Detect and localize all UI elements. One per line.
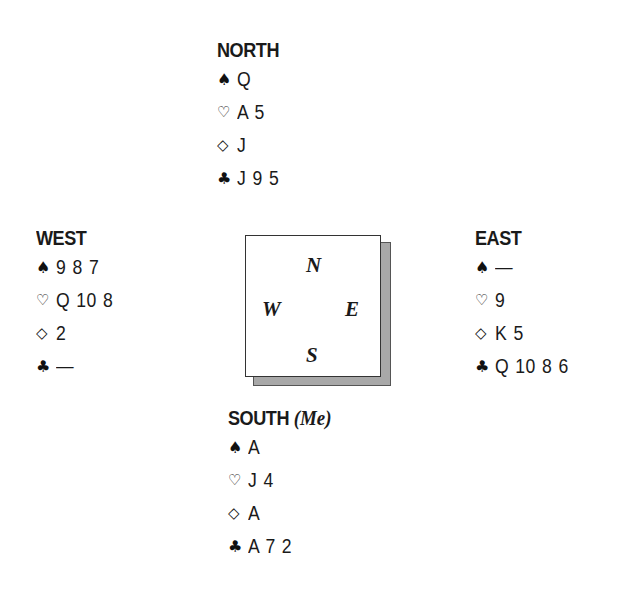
diamond-icon: ◇ xyxy=(217,129,237,162)
north-diamonds-row: ◇ J xyxy=(217,129,289,162)
north-spades-row: ♠ Q xyxy=(217,63,289,96)
heart-icon: ♡ xyxy=(217,96,237,129)
west-diamonds: 2 xyxy=(56,317,66,350)
compass-south: S xyxy=(306,343,318,368)
spade-icon: ♠ xyxy=(228,431,248,464)
heart-icon: ♡ xyxy=(36,284,56,317)
east-title: EAST xyxy=(475,225,564,251)
east-hearts-row: ♡ 9 xyxy=(475,284,579,317)
west-diamonds-row: ◇ 2 xyxy=(36,317,121,350)
spade-icon: ♠ xyxy=(36,251,56,284)
compass-east: E xyxy=(345,297,359,322)
north-spades: Q xyxy=(237,63,251,96)
north-title: NORTH xyxy=(217,37,279,63)
west-spades: 9 8 7 xyxy=(56,251,99,284)
east-hand: EAST ♠ — ♡ 9 ◇ K 5 ♣ Q 10 8 6 xyxy=(475,225,579,383)
west-clubs: — xyxy=(56,350,74,383)
south-hand: SOUTH (Me) ♠ A ♡ J 4 ◇ A ♣ A 7 2 xyxy=(228,405,348,563)
compass-west: W xyxy=(262,297,281,322)
south-hearts: J 4 xyxy=(248,464,274,497)
east-diamonds: K 5 xyxy=(495,317,524,350)
south-hearts-row: ♡ J 4 xyxy=(228,464,348,497)
diamond-icon: ◇ xyxy=(475,317,495,350)
west-hearts: Q 10 8 xyxy=(56,284,113,317)
south-diamonds-row: ◇ A xyxy=(228,497,348,530)
diamond-icon: ◇ xyxy=(228,497,248,530)
west-clubs-row: ♣ — xyxy=(36,350,121,383)
heart-icon: ♡ xyxy=(475,284,495,317)
club-icon: ♣ xyxy=(36,350,56,383)
west-title: WEST xyxy=(36,225,109,251)
heart-icon: ♡ xyxy=(228,464,248,497)
north-clubs: J 9 5 xyxy=(237,162,279,195)
north-diamonds: J xyxy=(237,129,246,162)
east-clubs: Q 10 8 6 xyxy=(495,350,569,383)
west-hearts-row: ♡ Q 10 8 xyxy=(36,284,121,317)
club-icon: ♣ xyxy=(217,162,237,195)
south-title: SOUTH (Me) xyxy=(228,405,331,431)
south-spades-row: ♠ A xyxy=(228,431,348,464)
spade-icon: ♠ xyxy=(217,63,237,96)
compass-north: N xyxy=(306,253,321,278)
north-hearts: A 5 xyxy=(237,96,265,129)
west-spades-row: ♠ 9 8 7 xyxy=(36,251,121,284)
east-spades-row: ♠ — xyxy=(475,251,579,284)
east-hearts: 9 xyxy=(495,284,505,317)
east-spades: — xyxy=(495,251,513,284)
east-clubs-row: ♣ Q 10 8 6 xyxy=(475,350,579,383)
south-title-label: SOUTH xyxy=(228,406,289,429)
south-clubs-row: ♣ A 7 2 xyxy=(228,530,348,563)
west-hand: WEST ♠ 9 8 7 ♡ Q 10 8 ◇ 2 ♣ — xyxy=(36,225,121,383)
south-diamonds: A xyxy=(248,497,260,530)
south-clubs: A 7 2 xyxy=(248,530,292,563)
north-hearts-row: ♡ A 5 xyxy=(217,96,289,129)
south-spades: A xyxy=(248,431,260,464)
club-icon: ♣ xyxy=(228,530,248,563)
south-subtitle: (Me) xyxy=(294,405,332,430)
spade-icon: ♠ xyxy=(475,251,495,284)
club-icon: ♣ xyxy=(475,350,495,383)
east-diamonds-row: ◇ K 5 xyxy=(475,317,579,350)
north-hand: NORTH ♠ Q ♡ A 5 ◇ J ♣ J 9 5 xyxy=(217,37,289,195)
north-clubs-row: ♣ J 9 5 xyxy=(217,162,289,195)
diamond-icon: ◇ xyxy=(36,317,56,350)
compass-box: N W E S xyxy=(245,235,381,377)
